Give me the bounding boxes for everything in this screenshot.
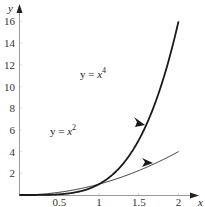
y-tick-label: 2 [10,167,16,179]
eq-x4-lhs: y = [80,68,97,80]
y-axis-label: y [7,2,13,14]
eq-x2-lhs: y = [50,125,67,137]
eq-x4-exp: 4 [102,66,106,75]
x-tick-label: 0.5 [52,196,66,207]
annotation-arrow-x2-icon [142,158,153,167]
curve-x2 [20,152,179,195]
y-tick-label: 14 [4,37,16,49]
curve-x4 [20,21,179,195]
chart: 246810121416 0.511.52 y x y = x4 y = x2 [0,0,205,207]
x-axis-label: x [197,196,203,207]
y-ticks: 246810121416 [4,15,22,179]
y-tick-label: 4 [10,146,16,158]
eq-x2-exp: 2 [72,123,76,132]
axes [17,4,200,199]
equation-label-x4: y = x4 [80,66,106,80]
annotation-arrow-x4-icon [134,117,145,127]
y-tick-label: 12 [4,59,15,71]
x-tick-label: 1 [96,196,102,207]
y-tick-label: 10 [4,81,16,93]
y-tick-label: 8 [10,102,16,114]
x-tick-label: 2 [176,196,182,207]
y-tick-label: 16 [4,15,16,27]
y-axis-arrow-icon [17,4,23,13]
y-tick-label: 6 [10,124,16,136]
equation-label-x2: y = x2 [50,123,76,137]
x-tick-label: 1.5 [132,196,146,207]
